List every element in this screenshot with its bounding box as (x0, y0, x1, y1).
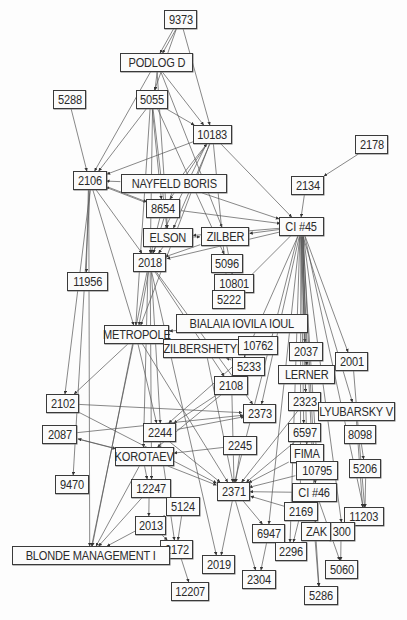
edge (361, 444, 363, 459)
node-bialaia-iovila-ioul[interactable]: BIALAIA IOVILA IOUL (176, 314, 308, 333)
node-2001[interactable]: 2001 (335, 352, 368, 371)
node-ci-45[interactable]: CI #45 (279, 217, 324, 236)
node-ci-46[interactable]: CI #46 (292, 483, 337, 502)
node-label: 10795 (302, 465, 332, 477)
node-label: 5286 (309, 590, 333, 602)
node-2102[interactable]: 2102 (46, 394, 79, 413)
node-2019[interactable]: 2019 (202, 555, 235, 574)
node-label: ZILBER (206, 231, 244, 243)
node-12207[interactable]: 12207 (171, 582, 209, 601)
node-2106[interactable]: 2106 (73, 171, 107, 190)
node-nayfeld-boris[interactable]: NAYFELD BORIS (121, 174, 227, 193)
node-label: 5222 (217, 294, 241, 306)
edge (221, 144, 292, 217)
edge (261, 543, 267, 570)
edge (145, 466, 148, 479)
node-label: 2373 (248, 408, 272, 420)
node-8098[interactable]: 8098 (344, 425, 376, 444)
node-2304[interactable]: 2304 (242, 570, 276, 589)
edge (167, 109, 195, 125)
node-label: 5233 (237, 361, 261, 373)
edge (315, 541, 319, 586)
node-label: CI #45 (286, 221, 317, 233)
node-2323[interactable]: 2323 (288, 392, 321, 411)
node-podlog-d[interactable]: PODLOG D (120, 53, 193, 72)
node-label: 5124 (171, 501, 195, 513)
node-label: 2304 (247, 574, 271, 586)
node-zak[interactable]: ZAK (301, 522, 331, 541)
node-5096[interactable]: 5096 (211, 254, 243, 273)
node-zilbershetyn[interactable]: ZILBERSHETYN (163, 339, 245, 358)
edge (93, 190, 134, 325)
node-300[interactable]: 300 (329, 522, 355, 541)
edge (181, 211, 280, 224)
edge (243, 501, 262, 524)
node-11956[interactable]: 11956 (67, 272, 108, 291)
node-label: 5055 (140, 94, 164, 106)
node-lerner[interactable]: LERNER (278, 365, 335, 384)
edge (365, 478, 366, 507)
edge (92, 272, 147, 546)
edge (106, 181, 120, 182)
node-label: 5288 (58, 94, 82, 106)
node-lyubarsky-v[interactable]: LYUBARSKY V (318, 402, 395, 421)
node-2244[interactable]: 2244 (143, 423, 176, 442)
node-2178[interactable]: 2178 (355, 135, 388, 154)
node-zilber[interactable]: ZILBER (201, 227, 249, 246)
edge (181, 559, 188, 582)
node-label: 2108 (219, 380, 243, 392)
node-2296[interactable]: 2296 (275, 542, 307, 561)
node-10795[interactable]: 10795 (296, 461, 338, 480)
node-5222[interactable]: 5222 (212, 290, 245, 309)
node-2169[interactable]: 2169 (284, 502, 318, 521)
node-label: 2134 (296, 180, 320, 192)
node-blonde-management-i[interactable]: BLONDE MANAGEMENT I (12, 546, 170, 565)
node-label: 11956 (73, 276, 102, 288)
node-6597[interactable]: 6597 (288, 423, 321, 442)
node-9470[interactable]: 9470 (55, 475, 89, 494)
node-elson[interactable]: ELSON (143, 228, 193, 247)
edge (65, 190, 90, 394)
edge (221, 501, 232, 555)
node-label: 2371 (222, 486, 246, 498)
node-2013[interactable]: 2013 (135, 516, 166, 535)
node-label: BIALAIA IOVILA IOUL (190, 318, 295, 330)
node-label: 12247 (136, 483, 166, 495)
node-9373[interactable]: 9373 (164, 10, 197, 29)
node-12247[interactable]: 12247 (131, 479, 171, 498)
node-metropole[interactable]: METROPOLE (104, 325, 169, 344)
node-label: 2013 (139, 520, 163, 532)
node-2373[interactable]: 2373 (243, 404, 276, 423)
node-5233[interactable]: 5233 (232, 357, 265, 376)
node-5055[interactable]: 5055 (136, 90, 168, 109)
node-2037[interactable]: 2037 (289, 342, 323, 361)
edge (305, 236, 348, 352)
node-2108[interactable]: 2108 (214, 376, 248, 395)
node-2087[interactable]: 2087 (42, 425, 77, 444)
node-10762[interactable]: 10762 (238, 336, 278, 355)
node-5286[interactable]: 5286 (304, 586, 338, 605)
node-5288[interactable]: 5288 (53, 90, 86, 109)
node-korotaev[interactable]: KOROTAEV (115, 447, 174, 466)
node-2245[interactable]: 2245 (223, 436, 257, 455)
node-5124[interactable]: 5124 (166, 497, 200, 516)
edge (168, 466, 217, 485)
node-label: 8654 (151, 203, 175, 215)
node-8654[interactable]: 8654 (146, 199, 180, 218)
node-label: 11203 (350, 511, 379, 523)
node-label: 300 (333, 526, 351, 538)
node-2134[interactable]: 2134 (291, 176, 324, 195)
node-5060[interactable]: 5060 (325, 560, 358, 579)
node-label: CI #46 (299, 487, 330, 499)
node-label: 9470 (60, 479, 84, 491)
node-6947[interactable]: 6947 (252, 524, 285, 543)
node-2371[interactable]: 2371 (217, 482, 250, 501)
node-label: 2244 (148, 427, 172, 439)
node-5206[interactable]: 5206 (349, 459, 381, 478)
node-2018[interactable]: 2018 (133, 253, 166, 272)
edge (95, 72, 151, 171)
edge (151, 272, 160, 423)
node-10183[interactable]: 10183 (193, 125, 232, 144)
node-label: PODLOG D (128, 57, 185, 69)
node-label: 2018 (138, 257, 162, 269)
